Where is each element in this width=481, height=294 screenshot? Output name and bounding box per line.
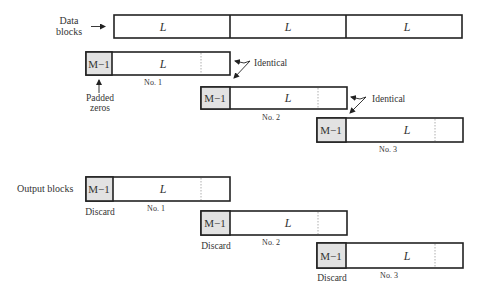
- output-blocks-label: Output blocks: [17, 183, 73, 194]
- identical-arrow-icon: [350, 97, 366, 113]
- data-blocks-label-line2: blocks: [56, 26, 82, 37]
- block-body-label: L: [403, 249, 411, 263]
- discard-label: Discard: [85, 207, 115, 217]
- input-block-2: M−1 L No. 2: [201, 87, 347, 122]
- identical-annotation-2: Identical: [350, 94, 406, 113]
- identical-arrow-icon: [351, 97, 360, 99]
- data-segment-label: L: [159, 20, 167, 34]
- block-caption: No. 1: [144, 78, 162, 87]
- block-caption: No. 2: [262, 238, 280, 247]
- pad-label: M−1: [88, 58, 109, 70]
- data-segment-label: L: [284, 20, 292, 34]
- block-caption: No. 1: [147, 204, 165, 213]
- output-block-3: M−1 L Discard No. 3: [317, 243, 463, 283]
- data-blocks-label-line1: Data: [60, 15, 79, 26]
- pad-label: M−1: [204, 92, 225, 104]
- padded-zeros-label-line2: zeros: [90, 103, 110, 113]
- identical-arrow-icon: [234, 61, 250, 78]
- input-block-1: M−1 L No. 1: [86, 52, 230, 87]
- padded-zeros-label-line1: Padded: [86, 93, 114, 103]
- block-body-label: L: [159, 182, 167, 196]
- identical-annotation-1: Identical: [234, 58, 288, 78]
- input-block-3: M−1 L No. 3: [317, 118, 463, 154]
- identical-arrow-icon: [235, 61, 244, 63]
- block-body-label: L: [284, 216, 292, 230]
- pad-label: M−1: [204, 217, 225, 229]
- identical-label: Identical: [254, 58, 288, 68]
- discard-label: Discard: [317, 273, 347, 283]
- pad-label: M−1: [320, 124, 341, 136]
- overlap-save-diagram: Data blocks L L L M−1 L No. 1 Padded zer…: [0, 0, 481, 294]
- data-blocks-bar: L L L: [114, 15, 462, 38]
- identical-label: Identical: [372, 94, 406, 104]
- data-segment-label: L: [403, 20, 411, 34]
- data-blocks-label: Data blocks: [56, 15, 82, 37]
- pad-label: M−1: [88, 183, 109, 195]
- discard-label: Discard: [201, 241, 231, 251]
- block-caption: No. 3: [379, 145, 397, 154]
- block-body-label: L: [284, 91, 292, 105]
- block-caption: No. 2: [262, 113, 280, 122]
- block-body-label: L: [403, 123, 411, 137]
- block-body-label: L: [159, 57, 167, 71]
- block-caption: No. 3: [380, 271, 398, 280]
- pad-label: M−1: [320, 250, 341, 262]
